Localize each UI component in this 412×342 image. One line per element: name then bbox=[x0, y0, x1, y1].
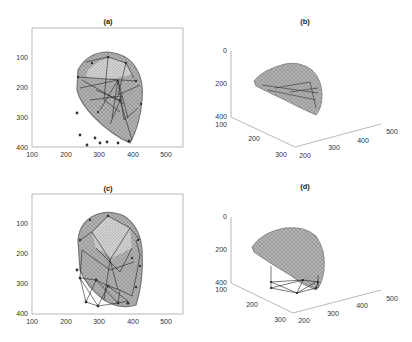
svg-text:300: 300 bbox=[93, 318, 105, 325]
svg-text:300: 300 bbox=[275, 151, 287, 158]
panel-b: (b) 0 200 400 100 200 300 200 300 400 50… bbox=[215, 17, 398, 159]
svg-text:400: 400 bbox=[215, 279, 227, 286]
svg-text:400: 400 bbox=[357, 137, 369, 144]
svg-text:400: 400 bbox=[127, 318, 139, 325]
panel-d-zticks: 0 200 400 bbox=[215, 213, 227, 286]
svg-text:500: 500 bbox=[160, 151, 172, 158]
svg-text:300: 300 bbox=[274, 316, 286, 323]
panel-b-zticks: 0 200 400 bbox=[215, 47, 227, 120]
panel-c-title: (c) bbox=[103, 184, 113, 193]
svg-text:100: 100 bbox=[215, 286, 227, 293]
svg-text:200: 200 bbox=[16, 84, 28, 91]
panel-c-xticks: 100 200 300 400 500 bbox=[26, 318, 172, 325]
panel-a: (a) 100 200 300 400 100 200 300 400 500 bbox=[16, 17, 183, 158]
svg-text:400: 400 bbox=[356, 302, 368, 309]
svg-text:400: 400 bbox=[16, 310, 28, 317]
svg-text:200: 200 bbox=[215, 80, 227, 87]
svg-text:400: 400 bbox=[215, 113, 227, 120]
svg-text:100: 100 bbox=[26, 318, 38, 325]
svg-text:500: 500 bbox=[386, 128, 398, 135]
panel-d-title: (d) bbox=[300, 182, 310, 191]
panel-a-xticks: 100 200 300 400 500 bbox=[26, 151, 172, 158]
svg-text:200: 200 bbox=[16, 250, 28, 257]
svg-text:300: 300 bbox=[328, 144, 340, 151]
svg-text:300: 300 bbox=[93, 151, 105, 158]
svg-text:400: 400 bbox=[16, 144, 28, 151]
figure: (a) 100 200 300 400 100 200 300 400 500 bbox=[0, 0, 412, 342]
svg-text:500: 500 bbox=[160, 318, 172, 325]
svg-text:0: 0 bbox=[223, 213, 227, 220]
svg-text:100: 100 bbox=[16, 220, 28, 227]
panel-a-title: (a) bbox=[103, 17, 113, 26]
svg-text:200: 200 bbox=[299, 152, 311, 159]
svg-text:200: 200 bbox=[60, 318, 72, 325]
panel-a-yticks: 100 200 300 400 bbox=[16, 54, 28, 151]
panel-c-yticks: 100 200 300 400 bbox=[16, 220, 28, 317]
svg-text:400: 400 bbox=[127, 151, 139, 158]
svg-text:100: 100 bbox=[26, 151, 38, 158]
svg-text:300: 300 bbox=[327, 310, 339, 317]
panel-d-yticks: 200 300 400 500 bbox=[298, 295, 398, 324]
svg-text:100: 100 bbox=[215, 121, 227, 128]
panel-d: (d) 0 200 400 100 200 300 200 300 400 50… bbox=[215, 182, 398, 324]
svg-text:200: 200 bbox=[215, 246, 227, 253]
svg-text:200: 200 bbox=[298, 317, 310, 324]
panel-b-title: (b) bbox=[300, 17, 310, 26]
svg-text:200: 200 bbox=[60, 151, 72, 158]
svg-text:0: 0 bbox=[223, 47, 227, 54]
panel-c: (c) 100 200 300 400 100 200 300 400 500 bbox=[16, 184, 183, 325]
svg-text:500: 500 bbox=[386, 295, 398, 302]
svg-text:300: 300 bbox=[16, 114, 28, 121]
svg-text:200: 200 bbox=[248, 135, 260, 142]
svg-text:100: 100 bbox=[16, 54, 28, 61]
svg-text:200: 200 bbox=[246, 301, 258, 308]
svg-text:300: 300 bbox=[16, 280, 28, 287]
